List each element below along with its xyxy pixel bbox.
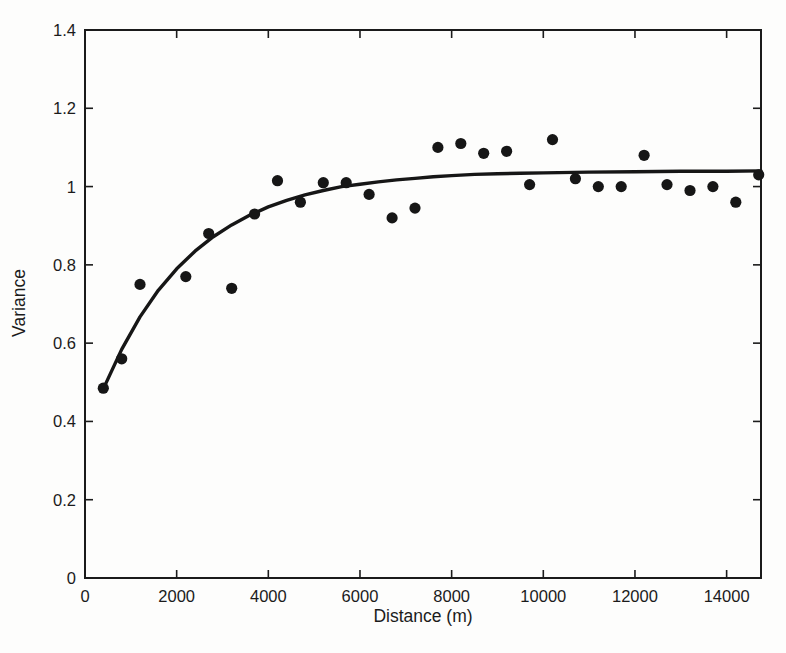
data-point — [593, 181, 604, 192]
data-point — [341, 177, 352, 188]
x-tick-label: 4000 — [250, 587, 287, 605]
data-point — [730, 197, 741, 208]
data-point — [753, 169, 764, 180]
y-tick-label: 1 — [67, 178, 76, 196]
y-tick-label: 0.2 — [53, 491, 76, 509]
variogram-chart: 0200040006000800010000120001400000.20.40… — [0, 0, 786, 653]
y-axis-label: Variance — [9, 269, 29, 337]
data-point — [116, 353, 127, 364]
data-point — [364, 189, 375, 200]
data-point — [661, 179, 672, 190]
data-point — [524, 179, 535, 190]
scanned-figure-page: 0200040006000800010000120001400000.20.40… — [0, 0, 786, 653]
y-tick-label: 0.8 — [53, 256, 76, 274]
data-point — [501, 146, 512, 157]
data-point — [180, 271, 191, 282]
x-tick-label: 2000 — [158, 587, 195, 605]
model-curve — [103, 171, 761, 389]
data-point — [639, 150, 650, 161]
y-tick-label: 1.4 — [53, 21, 76, 39]
x-axis-label: Distance (m) — [373, 606, 472, 626]
data-point — [478, 148, 489, 159]
x-tick-label: 8000 — [433, 587, 470, 605]
chart-generated-layer: 0200040006000800010000120001400000.20.40… — [53, 21, 764, 605]
y-tick-label: 0.6 — [53, 334, 76, 352]
data-point — [226, 283, 237, 294]
data-point — [455, 138, 466, 149]
data-point — [98, 383, 109, 394]
data-point — [387, 212, 398, 223]
y-tick-label: 1.2 — [53, 99, 76, 117]
data-point — [318, 177, 329, 188]
y-tick-label: 0 — [67, 569, 76, 587]
data-point — [616, 181, 627, 192]
data-point — [432, 142, 443, 153]
y-tick-label: 0.4 — [53, 412, 76, 430]
plot-frame — [85, 30, 761, 578]
data-point — [272, 175, 283, 186]
x-tick-label: 6000 — [342, 587, 379, 605]
x-tick-label: 10000 — [520, 587, 566, 605]
data-point — [570, 173, 581, 184]
x-tick-label: 14000 — [704, 587, 750, 605]
data-point — [684, 185, 695, 196]
data-point — [409, 203, 420, 214]
data-point — [134, 279, 145, 290]
x-tick-label: 0 — [80, 587, 89, 605]
data-point — [203, 228, 214, 239]
data-point — [295, 197, 306, 208]
data-point — [547, 134, 558, 145]
x-tick-label: 12000 — [612, 587, 658, 605]
data-point — [249, 208, 260, 219]
data-point — [707, 181, 718, 192]
